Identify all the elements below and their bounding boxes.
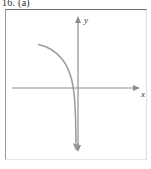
- y-axis-label: y: [83, 15, 88, 25]
- y-axis-arrowhead-top: [75, 16, 81, 23]
- x-axis-label: x: [140, 89, 145, 99]
- coordinate-plot: y x: [0, 0, 151, 169]
- plot-curve: [39, 45, 77, 143]
- x-axis-arrowhead: [133, 85, 140, 91]
- figure-page: 16.(a) y x: [0, 0, 151, 169]
